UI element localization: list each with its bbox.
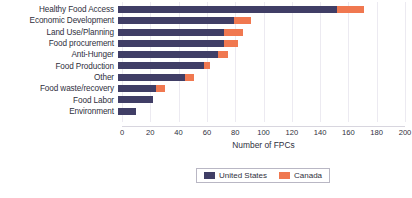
x-axis-ticks: 020406080100120140160180200 (0, 128, 412, 140)
category-label: Food Labor (0, 96, 118, 105)
x-tick-label: 60 (203, 128, 211, 138)
bar-segment-united-states (118, 74, 185, 81)
category-label: Economic Development (0, 16, 118, 25)
category-label: Environment (0, 107, 118, 116)
bar-row: Economic Development (0, 15, 412, 26)
x-tick-label: 0 (120, 128, 124, 138)
x-axis-title: Number of FPCs (122, 140, 405, 150)
legend-label-canada: Canada (294, 171, 322, 180)
bar-track (118, 27, 412, 38)
x-tick-label: 100 (257, 128, 270, 138)
bar-segment-canada (156, 85, 164, 92)
category-label: Land Use/Planning (0, 28, 118, 37)
bar-stack (118, 6, 364, 13)
category-label: Food waste/recovery (0, 84, 118, 93)
bar-track (118, 49, 412, 60)
x-tick-label: 120 (285, 128, 298, 138)
bar-row: Anti-Hunger (0, 49, 412, 60)
category-label: Anti-Hunger (0, 50, 118, 59)
bar-segment-united-states (118, 6, 337, 13)
category-label: Food Production (0, 62, 118, 71)
bar-row: Other (0, 72, 412, 83)
bar-stack (118, 96, 153, 103)
x-tick-label: 140 (314, 128, 327, 138)
bar-segment-united-states (118, 108, 136, 115)
category-label: Healthy Food Access (0, 5, 118, 14)
bar-segment-united-states (118, 29, 224, 36)
bar-row: Land Use/Planning (0, 27, 412, 38)
x-tick-label: 200 (399, 128, 412, 138)
bar-segment-canada (224, 29, 242, 36)
bar-row: Food procurement (0, 38, 412, 49)
legend-swatch-united-states (204, 172, 215, 179)
bar-track (118, 60, 412, 71)
bar-row: Food Labor (0, 94, 412, 105)
bar-row: Food Production (0, 60, 412, 71)
bar-stack (118, 17, 251, 24)
legend-item-united-states: United States (204, 171, 267, 180)
bar-track (118, 83, 412, 94)
bar-row: Environment (0, 106, 412, 117)
plot-area: Healthy Food AccessEconomic DevelopmentL… (0, 0, 412, 130)
bar-rows: Healthy Food AccessEconomic DevelopmentL… (0, 4, 412, 117)
bar-segment-canada (234, 17, 251, 24)
bar-segment-united-states (118, 96, 153, 103)
category-label: Other (0, 73, 118, 82)
bar-segment-canada (337, 6, 364, 13)
bar-segment-canada (224, 40, 238, 47)
x-tick-label: 20 (146, 128, 154, 138)
bar-stack (118, 40, 238, 47)
bar-stack (118, 29, 243, 36)
x-tick-label: 180 (370, 128, 383, 138)
bar-track (118, 106, 412, 117)
bar-track (118, 94, 412, 105)
bar-segment-united-states (118, 85, 156, 92)
bar-stack (118, 85, 165, 92)
bar-track (118, 15, 412, 26)
bar-segment-canada (185, 74, 195, 81)
bar-stack (118, 51, 228, 58)
bar-segment-united-states (118, 17, 234, 24)
bar-segment-canada (218, 51, 228, 58)
bar-stack (118, 74, 194, 81)
bar-segment-united-states (118, 62, 204, 69)
x-tick-label: 40 (174, 128, 182, 138)
x-axis-line (122, 126, 405, 127)
bar-stack (118, 108, 136, 115)
bar-row: Healthy Food Access (0, 4, 412, 15)
bar-track (118, 38, 412, 49)
bar-segment-canada (204, 62, 210, 69)
bar-segment-united-states (118, 51, 218, 58)
bar-row: Food waste/recovery (0, 83, 412, 94)
bar-track (118, 72, 412, 83)
bar-segment-united-states (118, 40, 224, 47)
x-tick-label: 80 (231, 128, 239, 138)
stacked-bar-chart: Healthy Food AccessEconomic DevelopmentL… (0, 0, 412, 198)
bar-stack (118, 62, 210, 69)
chart-legend: United States Canada (196, 168, 330, 183)
legend-swatch-canada (279, 172, 290, 179)
bar-track (118, 4, 412, 15)
category-label: Food procurement (0, 39, 118, 48)
x-tick-label: 160 (342, 128, 355, 138)
legend-item-canada: Canada (279, 171, 322, 180)
legend-label-united-states: United States (219, 171, 267, 180)
